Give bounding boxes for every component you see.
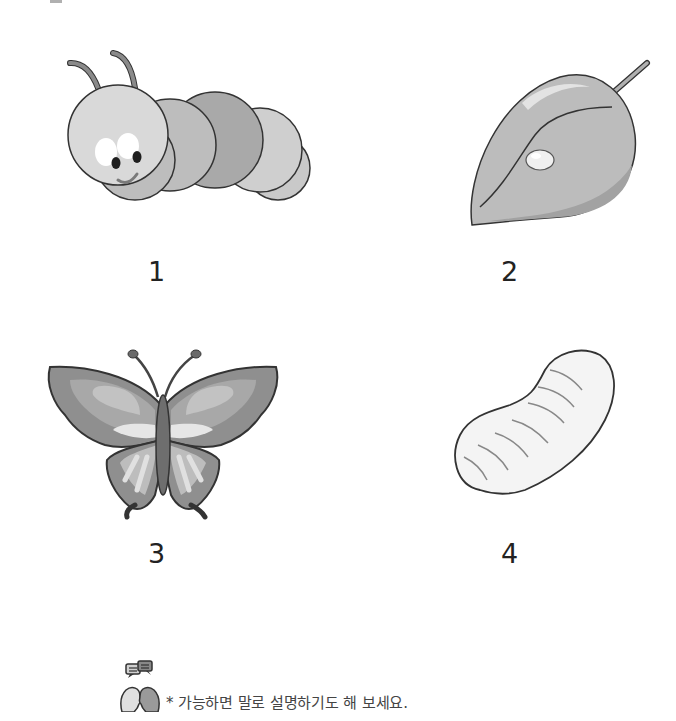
stage-number-2: 2 xyxy=(501,258,518,285)
pupa-image xyxy=(450,345,620,500)
footer-note-text: * 가능하면 말로 설명하기도 해 보세요. xyxy=(166,691,408,712)
conversation-icon xyxy=(118,660,162,712)
footer-note: * 가능하면 말로 설명하기도 해 보세요. xyxy=(118,660,408,712)
stage-number-3: 3 xyxy=(148,540,165,567)
stage-number-4: 4 xyxy=(501,540,518,567)
caterpillar-image xyxy=(30,40,320,210)
corner-mark xyxy=(50,0,62,3)
leaf-egg-image xyxy=(460,55,660,235)
butterfly-image xyxy=(45,345,280,520)
stage-number-1: 1 xyxy=(148,258,165,285)
